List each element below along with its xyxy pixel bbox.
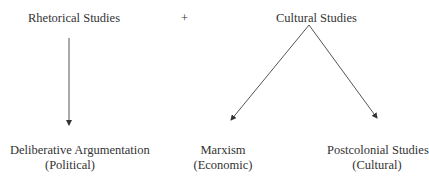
deliberative-line2: (Political) xyxy=(10,158,130,173)
postcolonial-line1: Postcolonial Studies xyxy=(327,143,427,158)
deliberative-line1: Deliberative Argumentation xyxy=(10,143,130,158)
marxism-label: Marxism (Economic) xyxy=(193,143,253,173)
postcolonial-studies-label: Postcolonial Studies (Cultural) xyxy=(327,143,427,173)
marxism-line2: (Economic) xyxy=(193,158,253,173)
cultural-studies-label: Cultural Studies xyxy=(276,11,357,26)
rhetorical-studies-label: Rhetorical Studies xyxy=(28,11,120,26)
marxism-line1: Marxism xyxy=(193,143,253,158)
deliberative-argumentation-label: Deliberative Argumentation (Political) xyxy=(10,143,130,173)
arrow-cultural-to-postcolonial xyxy=(309,25,377,118)
arrow-cultural-to-marxism xyxy=(231,25,309,120)
plus-sign: + xyxy=(181,11,188,26)
postcolonial-line2: (Cultural) xyxy=(327,158,427,173)
